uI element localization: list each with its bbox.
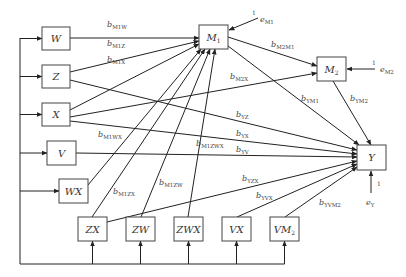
error-weight-M2: 1 xyxy=(372,59,376,66)
edge-ZX-M1 xyxy=(92,49,205,217)
node-M1: M1 xyxy=(199,25,228,49)
edge-M2-Y xyxy=(333,81,371,145)
error-term-Y: eY xyxy=(366,198,375,208)
node-ZX: ZX xyxy=(78,217,107,241)
edge-VM2-Y xyxy=(285,167,357,217)
node-Z: Z xyxy=(42,65,70,88)
error-weight-M1: 1 xyxy=(252,9,256,16)
svg-text:VX: VX xyxy=(229,224,244,235)
diagram-svg: WZXVWXZXZWZWXVXVM2M1M2Y bM1WbM1ZbM1XbM1W… xyxy=(0,0,406,277)
svg-text:ZWX: ZWX xyxy=(175,224,201,235)
svg-text:W: W xyxy=(51,33,62,44)
edge-ZX-Y xyxy=(107,161,357,222)
edge-Z-M1 xyxy=(70,41,199,72)
svg-text:ZW: ZW xyxy=(131,224,150,235)
node-X: X xyxy=(42,103,70,126)
label-bM2X: bM2X xyxy=(230,72,248,82)
label-bM2M1: bM2M1 xyxy=(271,40,294,50)
label-bM1ZX: bM1ZX xyxy=(113,187,135,197)
node-V: V xyxy=(47,141,76,165)
node-VM2: VM2 xyxy=(270,217,299,241)
label-bYM1: bYM1 xyxy=(301,94,319,104)
node-Y: Y xyxy=(357,145,386,170)
label-bM1WX: bM1WX xyxy=(98,130,122,140)
label-bYZ: bYZ xyxy=(236,110,249,120)
label-bM1ZW: bM1ZW xyxy=(159,178,183,188)
path-diagram: WZXVWXZXZWZWXVXVM2M1M2Y bM1WbM1ZbM1XbM1W… xyxy=(0,0,406,277)
label-bYV: bYV xyxy=(236,145,250,155)
edge-V-Y xyxy=(76,153,357,157)
svg-text:ZX: ZX xyxy=(84,224,100,235)
node-W: W xyxy=(42,27,70,50)
error-weight-Y: 1 xyxy=(377,180,381,187)
label-bYVX: bYVX xyxy=(256,191,273,201)
edge-ZWX-M1 xyxy=(188,49,215,217)
svg-text:Z: Z xyxy=(52,71,61,82)
error-term-M2: eM2 xyxy=(380,65,394,75)
node-ZWX: ZWX xyxy=(174,217,203,241)
label-bYM2: bYM2 xyxy=(350,94,368,104)
node-VX: VX xyxy=(222,217,251,241)
edge-WX-M1 xyxy=(88,49,201,185)
label-bM1X: bM1X xyxy=(107,55,125,65)
label-bM1Z: bM1Z xyxy=(107,39,125,49)
label-bM1W: bM1W xyxy=(107,20,127,30)
svg-text:WX: WX xyxy=(65,186,83,197)
edge-X-M1 xyxy=(70,44,199,110)
svg-text:X: X xyxy=(51,109,60,120)
error-term-M1: eM1 xyxy=(260,15,274,25)
node-WX: WX xyxy=(59,179,88,203)
label-bYZX: bYZX xyxy=(242,174,259,184)
label-bM1ZWX: bM1ZWX xyxy=(196,139,224,149)
node-M2: M2 xyxy=(317,57,346,81)
label-bYVM2: bYVM2 xyxy=(319,198,341,208)
label-bYX: bYX xyxy=(236,129,249,139)
node-ZW: ZW xyxy=(126,217,155,241)
